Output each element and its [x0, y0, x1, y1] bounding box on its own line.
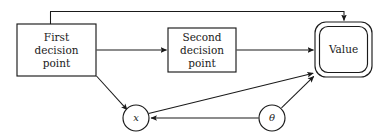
first-decision-point-label-line-3: point	[43, 57, 71, 69]
node-first-decision-point[interactable]: First decision point	[17, 24, 96, 76]
edge-first-to-value-feedback	[51, 12, 345, 25]
edge-x-to-value	[149, 73, 314, 113]
node-second-decision-point[interactable]: Second decision point	[168, 28, 236, 72]
second-decision-point-label-line-2: decision	[180, 44, 224, 56]
x-variable-label: x	[133, 112, 139, 123]
node-x-variable[interactable]: x	[123, 105, 149, 131]
first-decision-point-label-line-1: First	[44, 31, 70, 43]
edge-first-to-x	[97, 76, 128, 110]
decision-flow-diagram: First decision point Second decision poi…	[0, 0, 386, 139]
first-decision-point-label-line-2: decision	[34, 44, 78, 56]
node-theta-variable[interactable]: θ	[259, 105, 285, 131]
value-label: Value	[328, 43, 358, 55]
edge-theta-to-value	[282, 76, 314, 107]
node-value[interactable]: Value	[315, 22, 372, 77]
theta-variable-label: θ	[269, 112, 275, 123]
second-decision-point-label-line-3: point	[188, 57, 216, 69]
diagram-canvas: First decision point Second decision poi…	[0, 0, 386, 139]
second-decision-point-label-line-1: Second	[182, 31, 221, 43]
